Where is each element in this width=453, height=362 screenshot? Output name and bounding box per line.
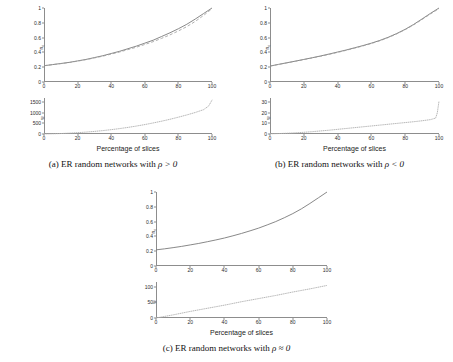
- plot-area: [270, 98, 439, 134]
- figure-root: nc 00.20.40.60.81020406080100 w 05001000…: [0, 0, 453, 362]
- x-tick-mark: [405, 82, 406, 84]
- caption-c: (c) ER random networks with ρ ≈ 0: [112, 342, 341, 354]
- y-tick-label: 1500: [30, 100, 41, 105]
- x-tick-label: 20: [75, 136, 81, 141]
- x-tick-mark: [270, 82, 271, 84]
- y-tick-label: 1: [38, 6, 41, 11]
- y-tick-mark: [268, 102, 270, 103]
- x-axis-title: Percentage of slices: [156, 328, 327, 337]
- y-tick-mark: [268, 52, 270, 53]
- y-tick-label: 0.8: [260, 20, 267, 25]
- y-tick-label: 1000: [30, 110, 41, 115]
- x-tick-mark: [144, 82, 145, 84]
- x-tick-mark: [77, 82, 78, 84]
- x-tick-mark: [439, 134, 440, 136]
- y-tick-mark: [42, 67, 44, 68]
- y-tick-label: 0: [150, 316, 153, 321]
- curves-a-bottom: [44, 98, 212, 134]
- y-tick-label: 1: [264, 6, 267, 11]
- y-tick-mark: [42, 22, 44, 23]
- x-tick-mark: [212, 134, 213, 136]
- y-tick-label: 0.6: [260, 35, 267, 40]
- y-tick-label: 0: [38, 132, 41, 137]
- x-axis-title: Percentage of slices: [44, 144, 212, 153]
- x-tick-mark: [337, 82, 338, 84]
- x-tick-label: 100: [435, 136, 443, 141]
- y-tick-mark: [42, 102, 44, 103]
- x-tick-mark: [111, 134, 112, 136]
- plot-area: [270, 8, 439, 82]
- y-tick-label: 20: [261, 110, 267, 115]
- curves-c-top: [156, 192, 327, 266]
- x-tick-label: 40: [108, 136, 114, 141]
- x-tick-mark: [292, 318, 293, 320]
- curve-dashed: [270, 9, 439, 66]
- y-tick-label: 0.4: [260, 50, 267, 55]
- x-tick-label: 80: [290, 268, 296, 273]
- curve-solid: [44, 8, 212, 66]
- plot-stack-a: nc 00.20.40.60.81020406080100 w 05001000…: [0, 2, 226, 142]
- curve-dotted: [156, 285, 327, 318]
- x-tick-mark: [111, 82, 112, 84]
- y-tick-mark: [268, 22, 270, 23]
- y-tick-label: 0.8: [146, 204, 153, 209]
- x-tick-label: 0: [43, 84, 46, 89]
- x-tick-label: 0: [269, 84, 272, 89]
- x-tick-mark: [327, 318, 328, 320]
- plot-stack-b: nc 00.20.40.60.81020406080100 w 01020300…: [226, 2, 453, 142]
- curve-solid: [270, 8, 439, 66]
- y-tick-mark: [268, 37, 270, 38]
- x-tick-label: 40: [222, 268, 228, 273]
- curves-a-top: [44, 8, 212, 82]
- y-tick-mark: [42, 52, 44, 53]
- x-tick-mark: [258, 266, 259, 268]
- x-tick-label: 60: [256, 268, 262, 273]
- x-tick-label: 60: [369, 84, 375, 89]
- x-tick-label: 80: [402, 84, 408, 89]
- x-tick-label: 0: [43, 136, 46, 141]
- y-tick-mark: [154, 206, 156, 207]
- x-tick-label: 100: [323, 268, 331, 273]
- curves-b-top: [270, 8, 439, 82]
- x-tick-mark: [371, 134, 372, 136]
- x-tick-mark: [212, 82, 213, 84]
- x-tick-label: 0: [269, 136, 272, 141]
- x-tick-label: 40: [335, 136, 341, 141]
- x-tick-label: 20: [75, 84, 81, 89]
- x-tick-mark: [270, 134, 271, 136]
- y-tick-mark: [42, 8, 44, 9]
- x-tick-label: 100: [435, 84, 443, 89]
- subfigure-a: nc 00.20.40.60.81020406080100 w 05001000…: [0, 2, 226, 180]
- x-tick-mark: [44, 82, 45, 84]
- x-tick-mark: [292, 266, 293, 268]
- panel-b-top: nc 00.20.40.60.81020406080100: [270, 8, 439, 82]
- y-tick-mark: [268, 123, 270, 124]
- y-tick-mark: [154, 236, 156, 237]
- caption-b: (b) ER random networks with ρ < 0: [226, 158, 453, 170]
- y-tick-mark: [42, 37, 44, 38]
- curve-dashed: [44, 9, 212, 66]
- y-tick-mark: [42, 112, 44, 113]
- x-tick-label: 20: [187, 320, 193, 325]
- subfigure-b: nc 00.20.40.60.81020406080100 w 01020300…: [226, 2, 453, 180]
- curves-c-bottom: [156, 282, 327, 318]
- panel-a-top: nc 00.20.40.60.81020406080100: [44, 8, 212, 82]
- plot-stack-c: nc 00.20.40.60.81020406080100 w 05010002…: [112, 186, 341, 326]
- y-tick-mark: [268, 8, 270, 9]
- y-tick-mark: [154, 286, 156, 287]
- x-tick-mark: [371, 82, 372, 84]
- x-tick-mark: [405, 134, 406, 136]
- panel-b-bottom: w 0102030020406080100: [270, 98, 439, 134]
- x-tick-label: 40: [335, 84, 341, 89]
- x-axis-title: Percentage of slices: [270, 144, 439, 153]
- x-tick-label: 80: [402, 136, 408, 141]
- y-tick-label: 0: [38, 80, 41, 85]
- x-tick-mark: [144, 134, 145, 136]
- caption-a: (a) ER random networks with ρ > 0: [0, 158, 226, 170]
- curve-solid: [156, 192, 327, 250]
- x-tick-label: 100: [323, 320, 331, 325]
- x-tick-label: 60: [142, 84, 148, 89]
- y-tick-mark: [268, 112, 270, 113]
- y-tick-mark: [154, 192, 156, 193]
- x-tick-mark: [258, 318, 259, 320]
